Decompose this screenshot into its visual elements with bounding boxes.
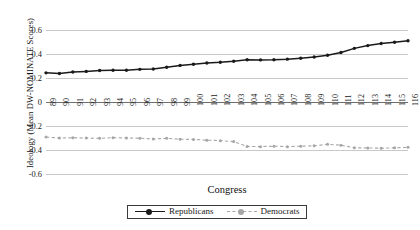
y-tick-label: -0.4	[29, 146, 42, 155]
data-point	[366, 146, 369, 149]
data-point	[353, 47, 356, 50]
data-point	[205, 61, 208, 64]
data-point	[379, 42, 382, 45]
chart-legend: RepublicansDemocrats	[127, 205, 307, 219]
y-tick-label: 0	[38, 98, 42, 107]
data-point	[259, 145, 262, 148]
data-point	[286, 145, 289, 148]
data-point	[313, 144, 316, 147]
series-line	[46, 41, 408, 74]
data-point	[366, 44, 369, 47]
x-axis-title: Congress	[46, 184, 408, 195]
data-point	[286, 57, 289, 60]
x-tick-label: 95	[129, 98, 138, 106]
data-point	[165, 137, 168, 140]
x-tick-label: 114	[384, 94, 393, 106]
data-point	[393, 41, 396, 44]
x-tick-label: 112	[357, 94, 366, 106]
data-point	[339, 144, 342, 147]
data-point	[178, 64, 181, 67]
x-tick-label: 92	[89, 98, 98, 106]
data-point	[339, 51, 342, 54]
data-point	[111, 69, 114, 72]
legend-marker-icon	[146, 209, 152, 215]
x-tick-label: 91	[76, 98, 85, 106]
data-point	[85, 137, 88, 140]
data-point	[259, 58, 262, 61]
data-point	[380, 147, 383, 150]
x-tick-label: 106	[277, 94, 286, 106]
gridline	[46, 174, 408, 175]
data-point	[138, 68, 141, 71]
x-tick-label: 94	[116, 98, 125, 106]
x-tick-label: 100	[196, 94, 205, 106]
data-point	[44, 71, 47, 74]
data-point	[125, 137, 128, 140]
legend-label: Republicans	[169, 207, 214, 216]
legend-marker-icon	[238, 209, 244, 215]
data-point	[326, 54, 329, 57]
data-point	[407, 146, 410, 149]
data-point	[165, 66, 168, 69]
data-point	[58, 72, 61, 75]
x-tick-label: 110	[331, 94, 340, 106]
data-point	[312, 55, 315, 58]
data-point	[58, 137, 61, 140]
data-point	[299, 145, 302, 148]
data-point	[393, 146, 396, 149]
y-tick-label: 0.6	[32, 26, 42, 35]
x-tick-label: 111	[344, 94, 353, 106]
y-tick-label: -0.2	[29, 122, 42, 131]
data-point	[406, 39, 409, 42]
data-point	[232, 60, 235, 63]
x-tick-label: 97	[156, 98, 165, 106]
data-point	[353, 146, 356, 149]
series-republicans	[44, 39, 409, 75]
x-tick-label: 93	[103, 98, 112, 106]
data-point	[272, 145, 275, 148]
x-tick-label: 116	[411, 94, 420, 106]
data-point	[205, 139, 208, 142]
data-point	[125, 69, 128, 72]
legend-swatch-icon	[227, 208, 257, 216]
data-point	[71, 70, 74, 73]
data-point	[45, 136, 48, 139]
data-point	[179, 138, 182, 141]
y-tick-label: -0.6	[29, 170, 42, 179]
data-point	[192, 138, 195, 141]
data-point	[326, 143, 329, 146]
data-point	[245, 58, 248, 61]
legend-label: Democrats	[261, 207, 300, 216]
data-point	[138, 137, 141, 140]
x-tick-label: 89	[49, 98, 58, 106]
data-point	[219, 139, 222, 142]
x-tick-label: 99	[183, 98, 192, 106]
x-tick-label: 105	[264, 94, 273, 106]
x-tick-label: 103	[237, 94, 246, 106]
chart-figure: Ideology (Mean DW-NOMINATE Scores) 0.60.…	[0, 0, 414, 230]
x-tick-label: 101	[210, 94, 219, 106]
x-tick-label: 104	[250, 94, 259, 106]
x-tick-label: 107	[290, 94, 299, 106]
data-point	[152, 67, 155, 70]
data-point	[299, 57, 302, 60]
x-tick-label: 115	[398, 94, 407, 106]
data-point	[192, 63, 195, 66]
legend-swatch-icon	[135, 208, 165, 216]
data-point	[232, 140, 235, 143]
y-tick-label: 0.2	[32, 74, 42, 83]
data-point	[219, 61, 222, 64]
data-point	[71, 136, 74, 139]
data-point	[272, 58, 275, 61]
legend-entry-republicans[interactable]: Republicans	[135, 207, 214, 216]
y-tick-label: 0.4	[32, 50, 42, 59]
data-point	[152, 137, 155, 140]
data-point	[246, 145, 249, 148]
legend-entry-democrats[interactable]: Democrats	[227, 207, 300, 216]
x-tick-label: 113	[371, 94, 380, 106]
x-tick-label: 90	[62, 98, 71, 106]
x-tick-label: 108	[304, 94, 313, 106]
series-democrats	[45, 136, 410, 150]
data-point	[112, 136, 115, 139]
data-point	[98, 137, 101, 140]
